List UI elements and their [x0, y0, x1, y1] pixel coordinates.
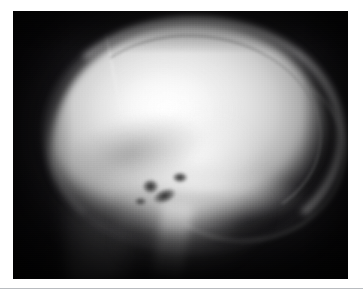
lateral-skull-radiograph[interactable] [13, 11, 348, 279]
page-divider-rule [0, 288, 363, 289]
document-page [0, 0, 363, 294]
film-grain-texture [13, 11, 348, 279]
